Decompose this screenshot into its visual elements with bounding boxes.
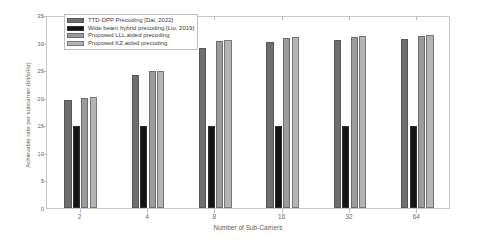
legend-swatch — [67, 33, 84, 38]
bar — [216, 41, 223, 208]
x-tick-label: 32 — [329, 213, 369, 220]
x-tick-mark-top — [349, 16, 350, 20]
legend-label: Proposed KZ aided precoding — [88, 40, 167, 48]
chart-legend: TTD-DPP Precoding [Dai, 2022]Wide beam h… — [64, 14, 198, 50]
y-tick-label: 25 — [4, 68, 44, 74]
bar — [266, 42, 273, 208]
x-tick-mark-top — [416, 16, 417, 20]
x-tick-label: 4 — [127, 213, 167, 220]
y-tick-label: 15 — [4, 123, 44, 129]
x-tick-mark — [416, 209, 417, 213]
chart-figure: Achievable rate per subcarrier (bit/s/Hz… — [0, 0, 493, 249]
legend-item: TTD-DPP Precoding [Dai, 2022] — [67, 17, 194, 25]
legend-item: Proposed LLL aided precoding — [67, 32, 194, 40]
bar — [283, 38, 290, 208]
bar — [81, 98, 88, 208]
bar — [224, 40, 231, 208]
legend-label: Wide beam hybrid precoding [Liu, 2019] — [88, 25, 194, 33]
x-tick-label: 64 — [396, 213, 436, 220]
bar — [292, 37, 299, 208]
x-tick-mark-top — [214, 16, 215, 20]
legend-swatch — [67, 18, 84, 23]
y-axis-label: Achievable rate per subcarrier (bit/s/Hz… — [25, 30, 31, 200]
bar — [64, 100, 71, 208]
bar — [199, 48, 206, 208]
bar — [132, 75, 139, 208]
bar — [418, 36, 425, 208]
bar — [90, 97, 97, 208]
x-tick-label: 16 — [262, 213, 302, 220]
y-tick-label: 5 — [4, 178, 44, 184]
bar — [359, 36, 366, 208]
bar — [208, 126, 215, 208]
x-tick-label: 2 — [60, 213, 100, 220]
bar — [426, 35, 433, 208]
x-tick-label: 8 — [194, 213, 234, 220]
bar — [410, 126, 417, 208]
x-tick-mark — [80, 209, 81, 213]
y-tick-label: 35 — [4, 13, 44, 19]
y-tick-label: 30 — [4, 41, 44, 47]
y-tick-label: 0 — [4, 206, 44, 212]
bar — [140, 126, 147, 208]
legend-swatch — [67, 26, 84, 31]
x-tick-mark-top — [282, 16, 283, 20]
y-tick-label: 10 — [4, 151, 44, 157]
legend-swatch — [67, 41, 84, 46]
x-tick-mark — [214, 209, 215, 213]
bar — [157, 71, 164, 208]
bar — [342, 126, 349, 208]
legend-item: Proposed KZ aided precoding — [67, 40, 194, 48]
bar — [334, 40, 341, 208]
legend-item: Wide beam hybrid precoding [Liu, 2019] — [67, 25, 194, 33]
x-tick-mark — [147, 209, 148, 213]
bar — [149, 71, 156, 208]
y-tick-label: 20 — [4, 96, 44, 102]
x-tick-mark — [282, 209, 283, 213]
x-axis-label: Number of Sub-Carriers — [46, 224, 450, 231]
bar — [401, 39, 408, 208]
legend-label: TTD-DPP Precoding [Dai, 2022] — [88, 17, 173, 25]
bar — [351, 37, 358, 208]
legend-label: Proposed LLL aided precoding — [88, 32, 170, 40]
bar — [275, 126, 282, 208]
bar — [73, 126, 80, 208]
x-tick-mark — [349, 209, 350, 213]
